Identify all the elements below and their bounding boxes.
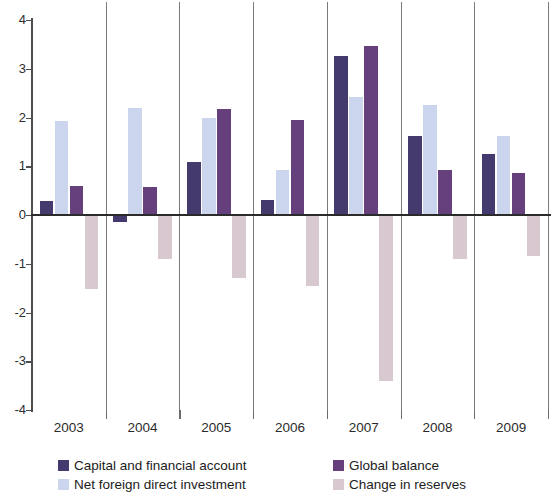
y-axis-tick-label: 3 — [0, 62, 26, 75]
x-axis-tick-label: 2007 — [334, 421, 394, 435]
bar — [113, 215, 127, 222]
bar — [334, 56, 348, 215]
y-axis-tick-label: 4 — [0, 13, 26, 26]
x-axis-tick-mark — [474, 410, 475, 419]
legend-item-net-foreign-direct-investment: Net foreign direct investment — [58, 475, 298, 494]
legend-label-capital-and-financial-account: Capital and financial account — [74, 459, 247, 473]
x-axis-tick-label: 2004 — [113, 421, 173, 435]
bar — [306, 215, 320, 286]
bar — [497, 136, 511, 215]
x-axis-tick-label: 2003 — [39, 421, 99, 435]
bar — [261, 200, 275, 215]
bar — [408, 136, 422, 215]
bar — [70, 186, 84, 215]
bar — [158, 215, 172, 259]
legend-label-change-in-reserves: Change in reserves — [349, 478, 466, 492]
zero-baseline — [31, 214, 551, 216]
bar — [423, 105, 437, 215]
y-axis-tick-label: -2 — [0, 306, 26, 319]
legend-item-global-balance: Global balance — [333, 456, 553, 475]
legend-swatch-change-in-reserves — [333, 479, 344, 490]
y-axis-tick-label: -3 — [0, 354, 26, 367]
bar — [55, 121, 69, 215]
legend-column-left: Capital and financial account Net foreig… — [58, 456, 298, 494]
bar — [202, 118, 216, 216]
chart-legend: Capital and financial account Net foreig… — [58, 456, 538, 496]
legend-item-change-in-reserves: Change in reserves — [333, 475, 553, 494]
legend-swatch-net-foreign-direct-investment — [58, 479, 69, 490]
bar — [276, 170, 290, 215]
category-separator-line — [548, 0, 549, 410]
bar — [187, 162, 201, 215]
legend-swatch-global-balance — [333, 460, 344, 471]
bar — [128, 108, 142, 215]
top-edge-crop-artifact — [0, 0, 553, 2]
bar — [438, 170, 452, 215]
x-axis-tick-label: 2005 — [186, 421, 246, 435]
x-axis-tick-mark — [179, 410, 180, 419]
bar — [482, 154, 496, 215]
y-axis-tick-label: -4 — [0, 403, 26, 416]
legend-item-capital-and-financial-account: Capital and financial account — [58, 456, 298, 475]
y-axis-tick-label: 1 — [0, 159, 26, 172]
y-axis-tick-label: 2 — [0, 111, 26, 124]
legend-swatch-capital-and-financial-account — [58, 460, 69, 471]
bar — [143, 187, 157, 215]
legend-label-net-foreign-direct-investment: Net foreign direct investment — [74, 478, 246, 492]
legend-column-right: Global balance Change in reserves — [333, 456, 553, 494]
x-axis-tick-mark — [253, 410, 254, 419]
x-axis-tick-label: 2009 — [481, 421, 541, 435]
bar — [349, 97, 363, 215]
y-axis-tick-mark — [26, 410, 32, 411]
bar — [527, 215, 541, 256]
x-axis-tick-mark — [548, 410, 549, 419]
y-axis-tick-label: 0 — [0, 208, 26, 221]
bar — [85, 215, 99, 289]
bar — [379, 215, 393, 381]
x-axis-tick-mark — [106, 410, 107, 419]
bar — [512, 173, 526, 215]
bar — [453, 215, 467, 259]
bar — [40, 201, 54, 215]
x-axis-tick-mark — [327, 410, 328, 419]
legend-label-global-balance: Global balance — [349, 459, 439, 473]
x-axis-tick-mark — [401, 410, 402, 419]
bar-chart: 43210-1-2-3-4 20032004200520062007200820… — [0, 0, 553, 499]
bar — [291, 120, 305, 215]
x-axis-tick-label: 2006 — [260, 421, 320, 435]
bar — [232, 215, 246, 278]
x-axis-tick-label: 2008 — [407, 421, 467, 435]
bar — [217, 109, 231, 215]
bar — [364, 46, 378, 215]
y-axis-tick-label: -1 — [0, 257, 26, 270]
